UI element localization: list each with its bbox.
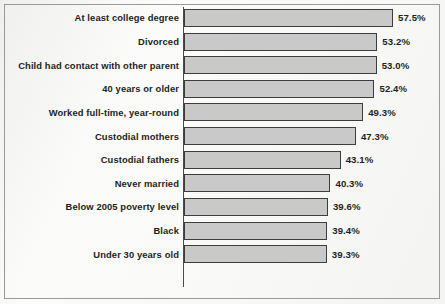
category-label: 40 years or older bbox=[102, 77, 179, 101]
category-label: Child had contact with other parent bbox=[18, 54, 179, 78]
bar bbox=[184, 222, 327, 240]
bar-fill bbox=[184, 127, 356, 145]
bar-value-label: 39.3% bbox=[332, 243, 360, 267]
category-label: Custodial mothers bbox=[95, 125, 179, 149]
bar-row: Custodial fathers43.1% bbox=[0, 148, 445, 172]
bar-value-label: 47.3% bbox=[361, 125, 389, 149]
category-label: Divorced bbox=[138, 30, 179, 54]
bar-value-label: 49.3% bbox=[368, 101, 396, 125]
category-label: Custodial fathers bbox=[101, 148, 179, 172]
bar-row: At least college degree57.5% bbox=[0, 6, 445, 30]
bar bbox=[184, 127, 356, 145]
bar-value-label: 43.1% bbox=[346, 148, 374, 172]
bar-fill bbox=[184, 33, 377, 51]
bar-fill bbox=[184, 103, 363, 121]
bar-value-label: 39.4% bbox=[332, 219, 360, 243]
bar bbox=[184, 198, 328, 216]
bar-fill bbox=[184, 245, 327, 263]
bar-value-label: 57.5% bbox=[398, 6, 426, 30]
bar bbox=[184, 151, 341, 169]
bar-fill bbox=[184, 174, 330, 192]
bar-row: Divorced53.2% bbox=[0, 30, 445, 54]
category-label: Under 30 years old bbox=[93, 243, 179, 267]
bar-value-label: 52.4% bbox=[379, 77, 407, 101]
bar-row: 40 years or older52.4% bbox=[0, 77, 445, 101]
bar-fill bbox=[184, 198, 328, 216]
bar-fill bbox=[184, 56, 377, 74]
category-label: Black bbox=[153, 219, 179, 243]
category-label: At least college degree bbox=[75, 6, 179, 30]
bar bbox=[184, 245, 327, 263]
category-label: Below 2005 poverty level bbox=[66, 195, 179, 219]
bar bbox=[184, 103, 363, 121]
bar-fill bbox=[184, 80, 374, 98]
bar-value-label: 53.2% bbox=[382, 30, 410, 54]
plot-area: At least college degree57.5%Divorced53.2… bbox=[0, 0, 445, 304]
bar-fill bbox=[184, 151, 341, 169]
bar bbox=[184, 56, 377, 74]
chart-figure: At least college degree57.5%Divorced53.2… bbox=[0, 0, 445, 304]
bar-row: Never married40.3% bbox=[0, 172, 445, 196]
bar bbox=[184, 33, 377, 51]
bar-value-label: 39.6% bbox=[333, 195, 361, 219]
bar bbox=[184, 80, 374, 98]
bar-row: Worked full-time, year-round49.3% bbox=[0, 101, 445, 125]
bar-row: Black39.4% bbox=[0, 219, 445, 243]
bar bbox=[184, 9, 393, 27]
bar-row: Child had contact with other parent53.0% bbox=[0, 54, 445, 78]
bar-fill bbox=[184, 222, 327, 240]
bar-row: Custodial mothers47.3% bbox=[0, 125, 445, 149]
category-label: Worked full-time, year-round bbox=[49, 101, 179, 125]
bar-value-label: 40.3% bbox=[335, 172, 363, 196]
bar-value-label: 53.0% bbox=[382, 54, 410, 78]
bar bbox=[184, 174, 330, 192]
bar-fill bbox=[184, 9, 393, 27]
bar-row: Below 2005 poverty level39.6% bbox=[0, 195, 445, 219]
category-label: Never married bbox=[115, 172, 179, 196]
bar-row: Under 30 years old39.3% bbox=[0, 243, 445, 267]
